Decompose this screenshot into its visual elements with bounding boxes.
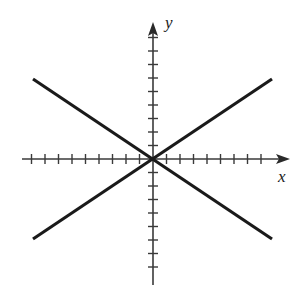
y-axis-label: y <box>165 14 173 31</box>
coordinate-plane-plot <box>0 0 301 289</box>
x-axis-label: x <box>278 168 286 185</box>
graph-figure: y x <box>0 0 301 289</box>
